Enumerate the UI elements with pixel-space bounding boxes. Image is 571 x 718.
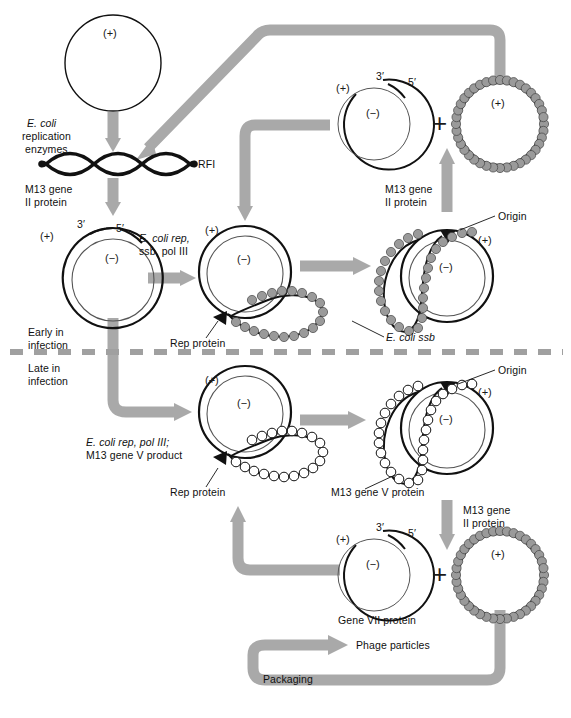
arrow-recycle-late-rf	[230, 506, 340, 570]
molecule-rfi-supercoil	[40, 154, 196, 175]
label-ecoli-rep-ssb-pol3-line2: ssb, pol III	[139, 245, 188, 258]
label-packaging: Packaging	[263, 673, 313, 686]
label-origin-late: Origin	[498, 364, 527, 377]
label-m13-geneII-left-line1: M13 gene	[25, 183, 73, 196]
arrow-geneII-up-early	[439, 148, 455, 212]
label-rfi: RFI	[198, 158, 215, 171]
rep-protein-marker-late	[213, 451, 227, 465]
arrow-plus-to-rfi	[105, 112, 121, 152]
label-m13-geneII-late-line2: II protein	[463, 517, 505, 530]
arrow-late-to-geneV-rolling	[300, 411, 366, 429]
label-plus-rolling-early-ssb: (+)	[478, 235, 492, 246]
label-rep-protein-early: Rep protein	[170, 337, 225, 350]
label-rep-protein-late: Rep protein	[170, 486, 225, 499]
label-ecoli-rep-ssb-pol3-line1: E. coli rep,	[139, 232, 190, 245]
molecule-rf-circle-product-early	[338, 80, 434, 170]
molecule-rf-circle-product-late	[338, 531, 434, 621]
label-m13-geneII-right-line2: II protein	[385, 196, 427, 209]
label-minus-rolling-late: (−)	[439, 414, 453, 425]
arrow-early-to-ssb-rolling	[300, 257, 371, 275]
label-ecoli-replication-enzymes-line1: E. coli	[27, 117, 56, 130]
arrow-recycle-top-to-rfi	[136, 30, 500, 160]
label-m13-geneII-left-line2: II protein	[25, 196, 67, 209]
label-ecoli-replication-enzymes-line3: enzymes	[25, 143, 68, 156]
molecule-rolling-circle-early	[199, 226, 322, 337]
label-3prime-rf-product-late: 3′	[376, 521, 384, 534]
label-plus-rf-early: (+)	[40, 231, 54, 242]
arrow-early-to-late	[113, 318, 192, 421]
label-3prime-rf-early: 3′	[77, 218, 85, 231]
label-plus-ssb-coated-circle: (+)	[491, 98, 505, 109]
label-ecoli-rep-pol3-geneV-line1: E. coli rep, pol III;	[86, 436, 169, 449]
label-late-in-infection-line2: infection	[28, 375, 68, 388]
label-ecoli-ssb: E. coli ssb	[386, 331, 435, 344]
label-minus-rf-product-early: (−)	[366, 108, 380, 119]
label-minus-rf-late: (−)	[237, 398, 251, 409]
label-early-in-infection-line1: Early in	[28, 326, 64, 339]
diagram-svg	[0, 0, 571, 718]
arrow-early-rep-step	[148, 270, 196, 286]
label-minus-rolling-early-ssb: (−)	[439, 262, 453, 273]
ssb-beads-early	[231, 286, 327, 341]
label-plus-geneV-coated-circle: (+)	[491, 549, 505, 560]
geneV-beads-late-loop	[231, 426, 328, 482]
label-ecoli-rep-pol3-geneV-line2: M13 gene V product	[86, 449, 182, 462]
label-3prime-rf-product-early: 3′	[376, 70, 384, 83]
plus-sign-late-products: +	[432, 561, 447, 587]
label-ecoli-replication-enzymes-line2: replication	[22, 130, 71, 143]
label-plus-rolling-late: (+)	[478, 387, 492, 398]
label-plus-ss-circle: (+)	[103, 28, 117, 39]
label-m13-geneII-right-line1: M13 gene	[385, 183, 433, 196]
rep-protein-marker	[213, 311, 227, 325]
label-gene-VII-protein: Gene VII protein	[338, 614, 416, 627]
label-5prime-rf-early: 5′	[116, 222, 124, 235]
label-5prime-rf-product-late: 5′	[408, 527, 416, 540]
label-minus-rf-product-late: (−)	[366, 559, 380, 570]
label-m13-geneV-protein: M13 gene V protein	[331, 486, 424, 499]
label-origin-early: Origin	[498, 210, 527, 223]
arrow-rfi-to-rf	[105, 178, 121, 216]
plus-sign-early-products: +	[432, 110, 447, 136]
label-phage-particles: Phage particles	[356, 639, 430, 652]
label-minus-rf-early: (−)	[105, 253, 119, 264]
label-m13-geneII-late-line1: M13 gene	[463, 504, 511, 517]
label-early-in-infection-line2: infection	[28, 339, 68, 352]
label-plus-rf-product-early: (+)	[336, 83, 350, 94]
label-5prime-rf-product-early: 5′	[408, 76, 416, 89]
arrow-geneII-down-late	[439, 500, 455, 550]
label-plus-rolling-early: (+)	[205, 225, 219, 236]
figure-canvas: (+) E. coli replication enzymes RFI M13 …	[0, 0, 571, 718]
molecule-ssb-coated-plus-circle	[451, 75, 548, 172]
label-minus-rolling-early: (−)	[237, 254, 251, 265]
molecule-geneV-coated-plus-circle	[451, 526, 548, 623]
label-late-in-infection-line1: Late in	[28, 362, 60, 375]
label-plus-rf-product-late: (+)	[336, 534, 350, 545]
arrow-top-down-to-early-rolling	[237, 125, 330, 221]
label-plus-rf-late: (+)	[205, 375, 219, 386]
